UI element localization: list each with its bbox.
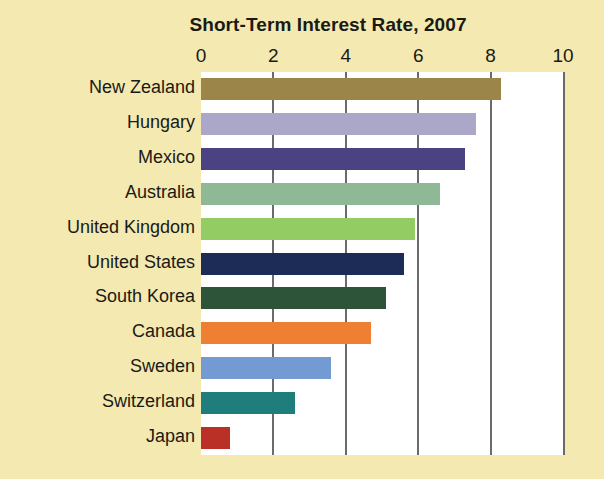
category-axis-labels: New ZealandHungaryMexicoAustraliaUnited … bbox=[0, 72, 195, 455]
bar-south-korea[interactable] bbox=[201, 287, 386, 309]
bar-mexico[interactable] bbox=[201, 148, 465, 170]
x-tick-label-0: 0 bbox=[196, 45, 207, 67]
category-label-hungary: Hungary bbox=[0, 112, 195, 133]
bar-japan[interactable] bbox=[201, 427, 230, 449]
category-label-south-korea: South Korea bbox=[0, 286, 195, 307]
category-label-japan: Japan bbox=[0, 426, 195, 447]
x-tick-label-8: 8 bbox=[485, 45, 496, 67]
bar-united-kingdom[interactable] bbox=[201, 218, 415, 240]
bar-new-zealand[interactable] bbox=[201, 78, 501, 100]
chart-title: Short-Term Interest Rate, 2007 bbox=[0, 14, 604, 36]
x-tick-label-4: 4 bbox=[341, 45, 352, 67]
bar-switzerland[interactable] bbox=[201, 392, 295, 414]
category-label-united-kingdom: United Kingdom bbox=[0, 217, 195, 238]
bar-chart: Short-Term Interest Rate, 2007 0246810 N… bbox=[0, 0, 604, 479]
category-label-australia: Australia bbox=[0, 182, 195, 203]
bar-sweden[interactable] bbox=[201, 357, 331, 379]
x-tick-label-2: 2 bbox=[268, 45, 279, 67]
x-axis-tick-labels: 0246810 bbox=[0, 45, 604, 71]
bars-layer bbox=[201, 72, 563, 455]
x-tick-label-10: 10 bbox=[552, 45, 573, 67]
bar-united-states[interactable] bbox=[201, 253, 404, 275]
category-label-new-zealand: New Zealand bbox=[0, 77, 195, 98]
category-label-canada: Canada bbox=[0, 321, 195, 342]
category-label-united-states: United States bbox=[0, 252, 195, 273]
bar-hungary[interactable] bbox=[201, 113, 476, 135]
category-label-mexico: Mexico bbox=[0, 147, 195, 168]
bar-canada[interactable] bbox=[201, 322, 371, 344]
x-tick-label-6: 6 bbox=[413, 45, 424, 67]
bar-australia[interactable] bbox=[201, 183, 440, 205]
category-label-sweden: Sweden bbox=[0, 356, 195, 377]
plot-area bbox=[201, 72, 565, 455]
category-label-switzerland: Switzerland bbox=[0, 391, 195, 412]
